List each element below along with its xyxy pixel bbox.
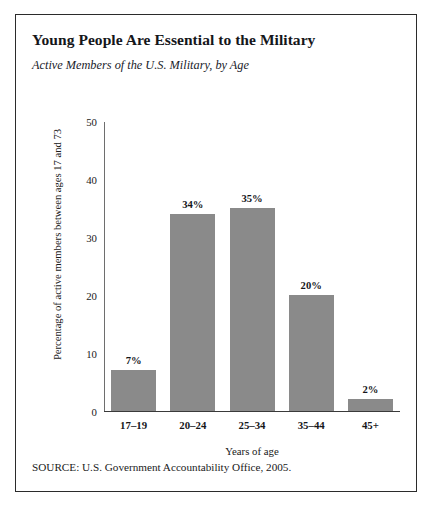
heading-block: Young People Are Essential to the Milita… [32,31,400,73]
bar-value-label: 34% [182,199,203,210]
x-category-label: 35–44 [298,419,325,431]
bar [348,399,393,411]
bars-layer: 7%17–1934%20–2435%25–3420%35–442%45+ [104,121,400,411]
source-note: SOURCE: U.S. Government Accountability O… [32,461,400,474]
bar [111,370,156,411]
x-category-label: 17–19 [120,419,147,431]
bar-value-label: 7% [126,355,142,366]
x-category-label: 45+ [362,419,379,431]
bar-group: 34%20–24 [170,121,215,411]
chart-axes: 01020304050 7%17–1934%20–2435%25–3420%35… [104,122,400,412]
bar-value-label: 20% [301,280,322,291]
y-axis-title: Percentage of active members between age… [52,100,63,390]
y-tick-label: 40 [86,174,97,186]
chart-subtitle: Active Members of the U.S. Military, by … [32,58,400,73]
chart-title: Young People Are Essential to the Milita… [32,31,400,49]
figure-frame: Young People Are Essential to the Milita… [15,14,417,492]
bar-value-label: 35% [241,193,262,204]
x-category-label: 20–24 [179,419,206,431]
y-tick-label: 20 [86,290,97,302]
plot-region: Percentage of active members between age… [16,101,418,451]
x-axis-title: Years of age [104,445,400,457]
bar [170,214,215,411]
y-tick-label: 30 [86,232,97,244]
bar [289,295,334,411]
y-tick-label: 50 [86,116,97,128]
bar [230,208,275,411]
bar-group: 35%25–34 [230,121,275,411]
x-category-label: 25–34 [239,419,266,431]
bar-value-label: 2% [362,384,378,395]
bar-group: 20%35–44 [289,121,334,411]
bar-group: 2%45+ [348,121,393,411]
y-tick-label: 0 [92,406,97,418]
y-tick-label: 10 [86,348,97,360]
bar-group: 7%17–19 [111,121,156,411]
x-axis-line [104,411,400,412]
